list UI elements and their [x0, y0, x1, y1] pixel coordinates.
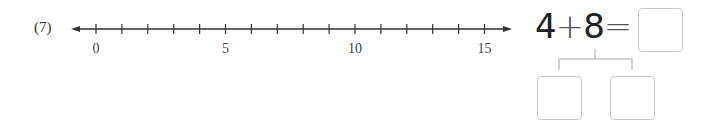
tick-label: 5	[222, 41, 229, 56]
equals-sign: =	[604, 6, 632, 46]
plus-sign: +	[556, 6, 584, 46]
tick-label: 15	[478, 41, 492, 56]
decomposition-bracket	[550, 45, 645, 75]
decomposition-left-box[interactable]	[537, 76, 582, 120]
decomposition-right-box[interactable]	[610, 76, 655, 120]
tick-label: 0	[93, 41, 100, 56]
operand-a: 4	[535, 6, 556, 46]
number-line: 051015	[0, 0, 520, 70]
arrow-left-icon	[71, 26, 80, 32]
tick-label: 10	[348, 41, 362, 56]
arrow-right-icon	[503, 26, 512, 32]
operand-b: 8	[583, 6, 604, 46]
equation: 4+8=	[535, 6, 631, 46]
